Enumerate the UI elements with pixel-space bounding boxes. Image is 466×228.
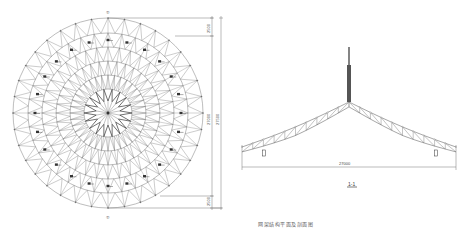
drawing-canvas: ① ① 2500 27000 27500 2500 27000 1-1 网架结构… [0,0,466,228]
drawing-caption: 网架结构平面及剖面图 [258,220,313,227]
section-1-1-elevation [241,47,456,156]
axis-label-bottom: ① [106,215,110,220]
section-title: 1-1 [348,181,355,187]
section-span-label: 27000 [339,161,350,166]
dim-top-label: 2500 [206,24,211,33]
axis-label-top: ① [106,10,110,15]
dome-plan-view [12,17,203,208]
structural-drawing [0,0,466,228]
dim-bottom-label: 2500 [206,197,211,206]
dim-total-label-2: 27500 [215,114,220,125]
dim-total-label-1: 27000 [206,114,211,125]
